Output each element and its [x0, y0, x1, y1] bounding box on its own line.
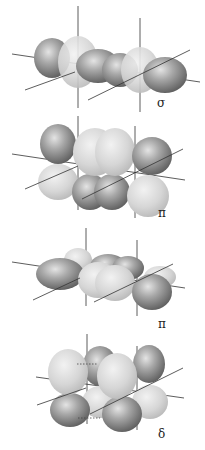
sigma-label: σ — [157, 96, 165, 110]
pi-label-1: π — [158, 206, 166, 220]
sigma-orbital-diagram — [0, 0, 205, 112]
pi-orbital-panel-1: π — [0, 112, 205, 222]
pi-orbital-diagram-1 — [0, 112, 205, 222]
delta-orbital-panel: δ — [0, 330, 205, 450]
delta-label: δ — [158, 427, 165, 441]
sigma-orbital-panel: σ — [0, 0, 205, 112]
pi-orbital-diagram-2 — [0, 222, 205, 330]
pi-orbital-panel-2: π — [0, 222, 205, 330]
pi-label-2: π — [158, 317, 166, 331]
delta-orbital-diagram — [0, 330, 205, 450]
